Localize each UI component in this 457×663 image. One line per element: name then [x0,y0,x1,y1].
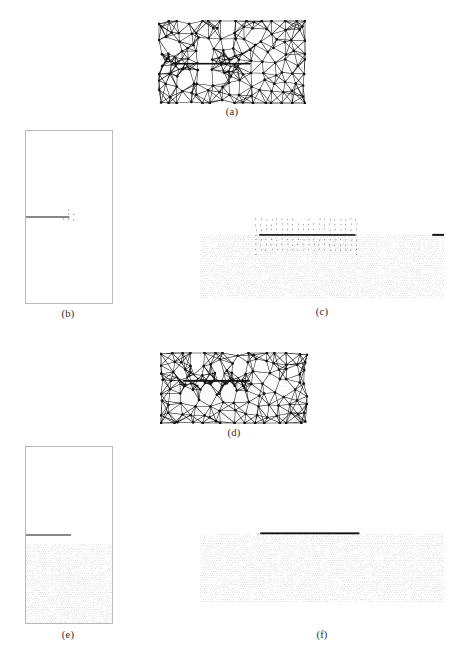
vector-field-plot-f [200,450,444,602]
panel-caption-f: (f) [200,629,444,640]
figure-panel-f [200,450,444,602]
figure-panel-d [160,352,308,424]
vector-field-plot-e [26,447,112,623]
panel-caption-b: (b) [25,308,111,319]
vector-field-plot-b [26,131,112,303]
figure-panel-a [158,20,306,104]
vector-field-plot-c [200,146,444,298]
panel-caption-e: (e) [25,629,111,640]
finite-element-mesh-d [160,352,308,424]
figure-panel-e [25,446,113,624]
panel-caption-c: (c) [200,306,444,317]
figure-panel-b [25,130,113,304]
figure-page: (a)(b)(c)(d)(e)(f) [0,0,457,663]
finite-element-mesh-a [158,20,306,104]
panel-caption-a: (a) [158,106,306,117]
panel-caption-d: (d) [160,427,308,438]
figure-panel-c [200,146,444,298]
running-header [0,0,457,12]
